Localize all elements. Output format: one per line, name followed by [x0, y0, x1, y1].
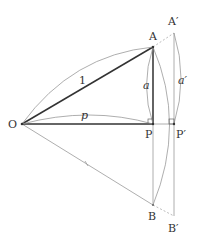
point-P-prime — [173, 123, 175, 125]
label-P-prime: P′ — [176, 128, 186, 141]
label-A: A — [148, 30, 158, 43]
segment-BB-prime-dashed — [153, 205, 174, 216]
point-B — [152, 204, 154, 206]
measure-label-A-prime-P-prime: a′ — [178, 74, 188, 87]
label-O: O — [8, 118, 17, 131]
point-P — [152, 123, 154, 125]
point-O — [21, 123, 24, 126]
measure-label-AP: a — [143, 79, 150, 92]
label-P: P — [145, 128, 153, 141]
label-B-prime: B′ — [168, 222, 179, 235]
arc-A-to-B — [153, 47, 170, 205]
label-B: B — [148, 210, 156, 223]
point-A — [152, 46, 154, 48]
measure-label-OP: p — [81, 109, 88, 122]
measure-label-OA: 1 — [79, 74, 86, 87]
geometry-diagram: O A A′ P P′ B B′ 1 p a a′ — [0, 0, 197, 252]
label-A-prime: A′ — [167, 15, 179, 28]
